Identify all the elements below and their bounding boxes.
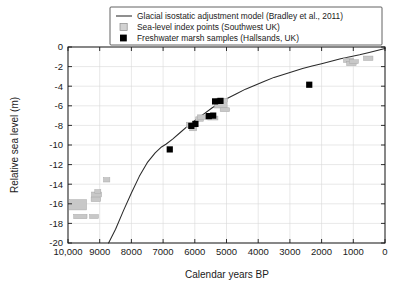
legend-swatch-index-points: [120, 23, 127, 30]
y-tick-label: -4: [55, 81, 63, 92]
marsh-sample-marker: [217, 98, 223, 104]
x-axis-title: Calendar years BP: [185, 269, 269, 280]
x-tick-label: 8000: [121, 246, 142, 257]
sea-level-index-box: [220, 108, 230, 112]
sea-level-index-box: [95, 190, 101, 194]
sea-level-index-box: [90, 215, 99, 219]
y-tick-label: -14: [49, 179, 63, 190]
sea-level-index-box: [91, 197, 101, 201]
y-tick-label: 0: [58, 41, 63, 52]
marsh-sample-marker: [167, 146, 173, 152]
sea-level-index-points: [70, 56, 373, 219]
y-tick-label: -18: [49, 218, 63, 229]
x-tick-label: 5000: [216, 246, 237, 257]
x-tick-label: 3000: [279, 246, 300, 257]
x-tick-label: 9000: [89, 246, 110, 257]
y-tick-label: -20: [49, 237, 63, 248]
y-tick-label: -12: [49, 159, 63, 170]
marsh-sample-marker: [210, 113, 216, 119]
legend-label: Freshwater marsh samples (Hallsands, UK): [137, 33, 299, 43]
y-tick-label: -16: [49, 198, 63, 209]
chart-legend: Glacial isostatic adjustment model (Brad…: [110, 7, 382, 45]
sea-level-index-box: [104, 178, 110, 182]
legend-label: Sea-level index points (Southwest UK): [137, 22, 280, 32]
x-tick-label: 1000: [343, 246, 364, 257]
marsh-sample-marker: [306, 82, 312, 88]
marsh-sample-marker: [192, 121, 198, 127]
sea-level-index-box: [70, 200, 87, 210]
gia-model-curve: [109, 48, 385, 243]
sea-level-index-box: [350, 60, 359, 64]
grid-lines: [68, 47, 385, 243]
x-tick-label: 6000: [184, 246, 205, 257]
sea-level-index-box: [363, 56, 373, 60]
legend-swatch-marsh-samples: [120, 35, 127, 42]
sea-level-chart-figure: 10,0009000800070006000500040003000200010…: [0, 0, 406, 293]
x-tick-label: 2000: [311, 246, 332, 257]
legend-label: Glacial isostatic adjustment model (Brad…: [137, 11, 343, 21]
gia-model-line: [109, 48, 385, 243]
y-tick-label: -10: [49, 139, 63, 150]
sea-level-index-box: [74, 214, 87, 218]
y-tick-label: -2: [55, 61, 63, 72]
x-tick-label: 7000: [153, 246, 174, 257]
x-tick-label: 0: [382, 246, 387, 257]
marsh-sample-marker: [212, 98, 218, 104]
y-tick-label: -8: [55, 120, 63, 131]
x-tick-label: 4000: [248, 246, 269, 257]
y-tick-label: -6: [55, 100, 63, 111]
x-axis-ticks: 10,0009000800070006000500040003000200010…: [53, 47, 387, 257]
y-axis-title: Relative sea level (m): [9, 97, 20, 193]
chart-canvas: 10,0009000800070006000500040003000200010…: [0, 0, 406, 293]
